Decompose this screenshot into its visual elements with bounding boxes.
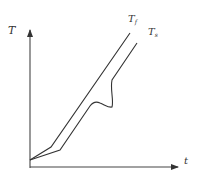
curve-ts bbox=[30, 43, 137, 160]
diagram: T t Tf Ts bbox=[0, 0, 199, 182]
label-ts: Ts bbox=[148, 26, 158, 38]
label-tf: Tf bbox=[128, 13, 139, 26]
y-axis-label: T bbox=[8, 24, 17, 37]
curve-tf bbox=[30, 33, 130, 160]
x-axis-label: t bbox=[184, 155, 189, 166]
